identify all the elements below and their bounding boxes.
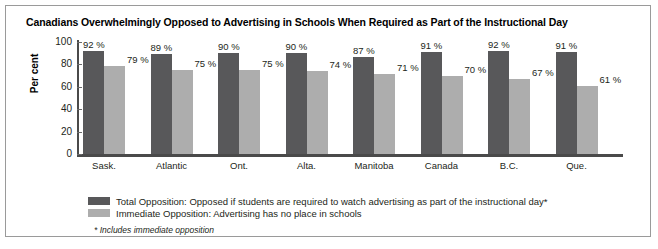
x-axis-category-label: Atlantic [139,160,205,171]
page-title: Canadians Overwhelmingly Opposed to Adve… [26,16,638,28]
bar-immediate-opposition: 74 % [307,71,328,154]
y-axis-tick-label: 20 [26,127,72,137]
bar-group: 91 %70 %Canada [421,42,463,154]
legend-swatch-total-opposition [88,197,110,205]
bar-value-label: 75 % [195,59,217,69]
bar-value-label: 74 % [330,60,352,70]
bar-immediate-opposition: 67 % [509,79,530,154]
bar-value-label: 92 % [83,40,105,50]
chart-legend: Total Opposition: Opposed if students ar… [88,195,547,219]
bar-total-opposition: 90 % [218,53,239,154]
bar-group: 90 %75 %Ont. [218,42,260,154]
bar-total-opposition: 90 % [286,53,307,154]
bar-immediate-opposition: 75 % [239,70,260,154]
bar-group: 87 %71 %Manitoba [353,42,395,154]
y-axis-title: Per cent [29,39,40,109]
x-axis-category-label: B.C. [476,160,542,171]
bar-value-label: 79 % [127,55,149,65]
bar-immediate-opposition: 70 % [442,76,463,154]
x-axis-category-label: Alta. [274,160,340,171]
bar-value-label: 61 % [600,75,622,85]
y-axis-tick-label: 80 [26,59,72,69]
footnote: * Includes immediate opposition [94,225,214,235]
bar-total-opposition: 91 % [421,52,442,154]
bar-value-label: 70 % [465,65,487,75]
bar-immediate-opposition: 79 % [104,66,125,154]
y-axis-tick-label: 100 [26,37,72,47]
bar-value-label: 87 % [353,46,375,56]
y-axis-tick-mark [77,154,82,155]
x-axis-baseline [77,154,623,157]
bar-value-label: 67 % [532,68,554,78]
bar-group: 89 %75 %Atlantic [151,42,193,154]
bar-value-label: 91 % [421,41,443,51]
chart-figure: Canadians Overwhelmingly Opposed to Adve… [5,5,651,237]
bar-value-label: 71 % [397,63,419,73]
x-axis-category-label: Sask. [71,160,137,171]
bar-total-opposition: 91 % [556,52,577,154]
bar-group: 90 %74 %Alta. [286,42,328,154]
y-axis-tick-label: 0 [26,149,72,159]
bar-value-label: 90 % [286,42,308,52]
x-axis-category-label: Manitoba [341,160,407,171]
bar-value-label: 91 % [556,41,578,51]
bar-immediate-opposition: 75 % [172,70,193,154]
bar-group: 92 %79 %Sask. [83,42,125,154]
bar-value-label: 89 % [151,43,173,53]
bar-immediate-opposition: 61 % [577,86,598,154]
legend-swatch-immediate-opposition [88,209,110,217]
bar-immediate-opposition: 71 % [374,74,395,154]
legend-label: Immediate Opposition: Advertising has no… [116,208,362,219]
bar-group: 92 %67 %B.C. [488,42,530,154]
y-axis-tick-label: 60 [26,82,72,92]
legend-item: Total Opposition: Opposed if students ar… [88,195,547,207]
bar-group: 91 %61 %Que. [556,42,598,154]
bar-value-label: 92 % [488,40,510,50]
x-axis-category-label: Ont. [206,160,272,171]
x-axis-category-label: Canada [409,160,475,171]
plot-area: 92 %79 %Sask.89 %75 %Atlantic90 %75 %Ont… [77,42,623,154]
legend-label: Total Opposition: Opposed if students ar… [116,196,547,207]
bar-total-opposition: 87 % [353,57,374,154]
bar-value-label: 90 % [218,42,240,52]
legend-item: Immediate Opposition: Advertising has no… [88,207,547,219]
bar-value-label: 75 % [262,59,284,69]
bar-total-opposition: 92 % [83,51,104,154]
y-axis-tick-label: 40 [26,104,72,114]
x-axis-category-label: Que. [544,160,610,171]
bar-total-opposition: 89 % [151,54,172,154]
bar-total-opposition: 92 % [488,51,509,154]
